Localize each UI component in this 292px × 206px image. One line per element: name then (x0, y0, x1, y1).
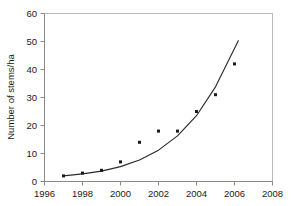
data-point-2001 (138, 141, 141, 144)
y-tick-label-20: 20 (26, 120, 37, 131)
x-tick-label-2008: 2008 (262, 188, 283, 199)
data-point-2004 (195, 110, 198, 113)
data-point-1998 (81, 172, 84, 175)
data-point-1999 (100, 169, 103, 172)
y-tick-label-30: 30 (26, 92, 37, 103)
x-axis-ticks (45, 182, 273, 186)
x-tick-label-2000: 2000 (110, 188, 131, 199)
y-axis-title: Number of stems/ha (5, 54, 16, 140)
data-point-1997 (62, 174, 65, 177)
x-tick-label-1998: 1998 (72, 188, 93, 199)
x-tick-label-1996: 1996 (34, 188, 55, 199)
y-tick-label-0: 0 (32, 176, 37, 187)
y-tick-label-60: 60 (26, 8, 37, 19)
plot-area-frame (45, 14, 273, 182)
x-tick-label-2006: 2006 (224, 188, 245, 199)
y-tick-label-10: 10 (26, 148, 37, 159)
chart-container: 0 10 20 30 40 50 60 1996 1998 2000 2002 … (0, 0, 292, 206)
x-axis-tick-labels: 1996 1998 2000 2002 2004 2006 2008 (34, 188, 283, 199)
data-point-2002 (157, 130, 160, 133)
y-tick-label-50: 50 (26, 36, 37, 47)
data-point-2000 (119, 160, 122, 163)
y-axis-ticks (41, 14, 45, 182)
scatter-chart: 0 10 20 30 40 50 60 1996 1998 2000 2002 … (0, 0, 292, 206)
data-point-2006 (233, 62, 236, 65)
x-tick-label-2002: 2002 (148, 188, 169, 199)
data-point-2005 (214, 93, 217, 96)
y-axis-tick-labels: 0 10 20 30 40 50 60 (26, 8, 37, 187)
data-point-2003 (176, 130, 179, 133)
x-tick-label-2004: 2004 (186, 188, 207, 199)
y-tick-label-40: 40 (26, 64, 37, 75)
